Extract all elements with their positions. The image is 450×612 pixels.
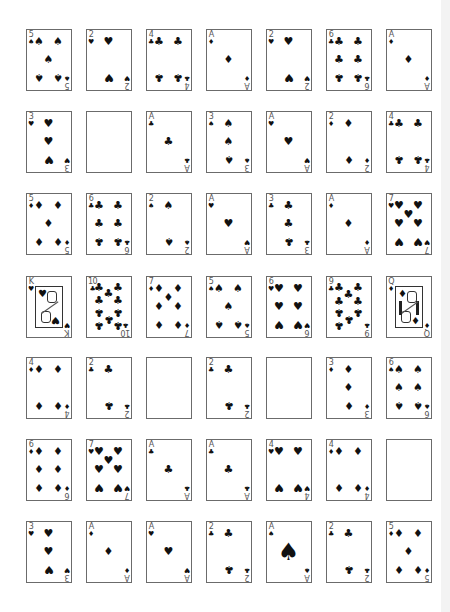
- empty-card-slot[interactable]: [86, 111, 132, 173]
- playing-card[interactable]: A♦A♦♦: [326, 193, 372, 255]
- playing-card[interactable]: A♥A♥♥: [146, 521, 192, 583]
- heart-icon: ♥: [412, 235, 424, 247]
- diamond-icon: ♦: [33, 200, 45, 212]
- playing-card[interactable]: A♣A♣♣: [206, 439, 252, 501]
- card-corner-index: A♠: [268, 523, 274, 538]
- playing-card[interactable]: 10♣10♣♣♣♣♣♣♣♣♣♣♣: [86, 276, 132, 338]
- heart-icon: ♥: [64, 156, 70, 163]
- playing-card[interactable]: 2♥2♥♥♥: [86, 29, 132, 91]
- card-corner-index: A♥: [304, 156, 310, 171]
- playing-card[interactable]: 3♥3♥♥♥♥: [26, 111, 72, 173]
- playing-card[interactable]: 2♥2♥♥♥: [266, 29, 312, 91]
- playing-card[interactable]: 7♥7♥♥♥♥♥♥♥♥: [386, 193, 432, 255]
- card-corner-index: A♥: [244, 238, 250, 253]
- playing-card[interactable]: 5♦5♦♦♦♦♦♦: [26, 193, 72, 255]
- card-rank-label: 5: [65, 245, 70, 253]
- diamond-icon: ♦: [33, 481, 45, 493]
- playing-card[interactable]: 4♣4♣♣♣♣♣: [386, 111, 432, 173]
- playing-card[interactable]: 2♣2♣♣♣: [206, 521, 252, 583]
- card-corner-index: 2♥: [124, 74, 130, 89]
- playing-card[interactable]: A♥A♥♥: [266, 111, 312, 173]
- playing-card[interactable]: A♦A♦♦: [86, 521, 132, 583]
- diamond-icon: ♦: [412, 563, 424, 575]
- playing-card[interactable]: K♥K♥♥♥: [26, 276, 72, 338]
- heart-icon: ♥: [244, 238, 250, 245]
- spade-icon: ♠: [304, 566, 310, 573]
- playing-card[interactable]: 9♣9♣♣♣♣♣♣♣♣♣♣: [326, 276, 372, 338]
- spade-icon: ♠: [232, 283, 244, 295]
- card-rank-label: 6: [305, 328, 310, 336]
- heart-icon: ♥: [184, 566, 190, 573]
- card-corner-index: 7♥: [124, 484, 130, 499]
- playing-card[interactable]: 6♣6♣♣♣♣♣♣♣: [86, 193, 132, 255]
- club-icon: ♣: [343, 528, 355, 540]
- club-icon: ♣: [412, 118, 424, 130]
- club-icon: ♣: [343, 563, 355, 575]
- card-grid: 5♠5♠♠♠♠♠♠2♥2♥♥♥4♣4♣♣♣♣♣A♦A♦♦2♥2♥♥♥6♣6♣♣♣…: [0, 0, 450, 612]
- card-corner-index: A♥: [268, 113, 274, 128]
- playing-card[interactable]: 3♦3♦♦♦♦: [326, 357, 372, 419]
- card-corner-index: 6♥: [304, 321, 310, 336]
- heart-icon: ♥: [38, 288, 47, 299]
- playing-card[interactable]: 4♥4♥♥♥♥♥: [266, 439, 312, 501]
- playing-card[interactable]: 6♠6♠♠♠♠♠♠♠: [386, 357, 432, 419]
- card-rank-label: 7: [185, 328, 190, 336]
- playing-card[interactable]: Q♦Q♦♦♦: [386, 276, 432, 338]
- diamond-icon: ♦: [403, 54, 415, 66]
- playing-card[interactable]: 3♠3♠♠♠♠: [206, 111, 252, 173]
- playing-card[interactable]: 5♠5♠♠♠♠♠♠: [26, 29, 72, 91]
- diamond-icon: ♦: [424, 74, 430, 81]
- playing-card[interactable]: A♠A♠♠: [266, 521, 312, 583]
- playing-card[interactable]: 5♠5♠♠♠♠♠♠: [206, 276, 252, 338]
- playing-card[interactable]: 2♦2♦♦♦: [326, 111, 372, 173]
- playing-card[interactable]: 4♦4♦♦♦♦♦: [26, 357, 72, 419]
- diamond-icon: ♦: [388, 39, 394, 46]
- heart-icon: ♥: [208, 203, 214, 210]
- club-icon: ♣: [352, 54, 364, 66]
- card-rank-label: 2: [305, 81, 310, 89]
- playing-card[interactable]: 2♣2♣♣♣: [206, 357, 252, 419]
- diamond-icon: ♦: [398, 288, 407, 299]
- playing-card[interactable]: 6♥6♥♥♥♥♥♥♥: [266, 276, 312, 338]
- empty-card-slot[interactable]: [146, 357, 192, 419]
- playing-card[interactable]: A♦A♦♦: [386, 29, 432, 91]
- playing-card[interactable]: 2♣2♣♣♣: [326, 521, 372, 583]
- club-icon: ♣: [333, 319, 345, 331]
- card-rank-label: A: [424, 81, 429, 89]
- playing-card[interactable]: 4♦4♦♦♦♦♦: [326, 439, 372, 501]
- card-rank-label: 5: [425, 573, 430, 581]
- spade-icon: ♠: [223, 301, 235, 313]
- card-rank-label: 6: [65, 491, 70, 499]
- spade-icon: ♠: [33, 71, 45, 83]
- diamond-icon: ♦: [33, 364, 45, 376]
- heart-icon: ♥: [43, 528, 55, 540]
- heart-icon: ♥: [283, 136, 295, 148]
- diamond-icon: ♦: [52, 464, 64, 476]
- heart-icon: ♥: [163, 546, 175, 558]
- playing-card[interactable]: 3♣3♣♣♣♣: [266, 193, 312, 255]
- playing-card[interactable]: A♦A♦♦: [206, 29, 252, 91]
- playing-card[interactable]: 4♣4♣♣♣♣♣: [146, 29, 192, 91]
- empty-card-slot[interactable]: [386, 439, 432, 501]
- diamond-icon: ♦: [411, 315, 420, 326]
- playing-card[interactable]: A♥A♥♥: [206, 193, 252, 255]
- club-icon: ♣: [184, 74, 190, 81]
- heart-icon: ♥: [412, 218, 424, 230]
- empty-card-slot[interactable]: [266, 357, 312, 419]
- playing-card[interactable]: 3♥3♥♥♥♥: [26, 521, 72, 583]
- playing-card[interactable]: 2♠2♠♠♠: [146, 193, 192, 255]
- card-corner-index: 3♥: [28, 113, 34, 128]
- playing-card[interactable]: 6♦6♦♦♦♦♦♦♦: [26, 439, 72, 501]
- spade-icon: ♠: [412, 399, 424, 411]
- playing-card[interactable]: A♣A♣♣: [146, 439, 192, 501]
- playing-card[interactable]: 7♦7♦♦♦♦♦♦♦♦: [146, 276, 192, 338]
- card-corner-index: A♣: [244, 484, 250, 499]
- playing-card[interactable]: 5♦5♦♦♦♦♦♦: [386, 521, 432, 583]
- playing-card[interactable]: 2♣2♣♣♣: [86, 357, 132, 419]
- heart-icon: ♥: [273, 283, 285, 295]
- playing-card[interactable]: 6♣6♣♣♣♣♣♣♣: [326, 29, 372, 91]
- playing-card[interactable]: A♣A♣♣: [146, 111, 192, 173]
- heart-icon: ♥: [273, 301, 285, 313]
- playing-card[interactable]: 7♥7♥♥♥♥♥♥♥♥: [86, 439, 132, 501]
- club-icon: ♣: [93, 200, 105, 212]
